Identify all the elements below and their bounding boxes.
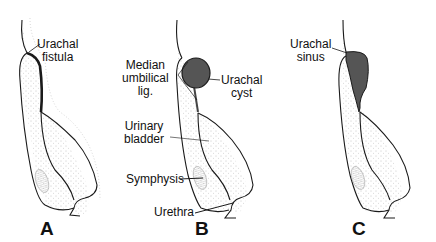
panel-letter-b: B [195,218,209,240]
label-urachal-fistula: Urachal fistula [37,38,78,64]
label-urinary-bladder: Urinary bladder [124,120,164,146]
label-urachal-sinus: Urachal sinus [290,38,331,64]
panel-c-drawing [332,20,410,218]
label-symphysis: Symphysis [126,173,184,186]
label-urachal-cyst: Urachal cyst [221,74,262,100]
panel-b-drawing [170,20,253,218]
panel-letter-a: A [40,218,54,240]
label-line: bladder [124,133,164,146]
panel-letter-c: C [352,218,366,240]
urachal-cyst-shape [182,58,210,88]
label-line: sinus [290,51,331,64]
label-median-umbilical-lig: Median umbilical lig. [122,59,169,98]
label-line: cyst [221,87,262,100]
label-line: lig. [122,85,169,98]
label-line: fistula [37,51,78,64]
label-urethra: Urethra [154,206,194,219]
